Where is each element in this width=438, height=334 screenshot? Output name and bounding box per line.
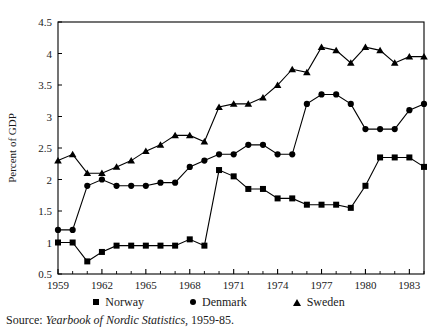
series-line-denmark [58, 94, 424, 229]
data-point-denmark [333, 91, 339, 97]
data-point-denmark [406, 107, 412, 113]
y-axis-tick-label: 2 [47, 174, 53, 186]
data-point-denmark [245, 142, 251, 148]
source-prefix: Source: [6, 313, 43, 327]
data-point-denmark [143, 183, 149, 189]
data-point-norway [348, 205, 354, 211]
series-line-sweden [58, 47, 424, 173]
data-point-denmark [304, 101, 310, 107]
data-point-norway [333, 202, 339, 208]
legend-item-norway: Norway [93, 295, 144, 310]
data-point-norway [187, 236, 193, 242]
series-line-norway [58, 157, 424, 261]
y-axis-tick-label: 4.5 [38, 16, 52, 28]
source-years: 1959-85. [191, 313, 234, 327]
y-axis-tick-label: 1 [47, 237, 53, 249]
x-axis-tick-label: 1968 [179, 279, 202, 291]
data-point-sweden [318, 44, 326, 51]
data-point-denmark [318, 91, 324, 97]
data-point-sweden [362, 44, 370, 51]
data-point-sweden [288, 66, 296, 73]
y-axis-tick-label: 3 [47, 111, 53, 123]
data-point-denmark [70, 227, 76, 233]
data-point-norway [231, 173, 237, 179]
x-axis-tick-label: 1962 [91, 279, 113, 291]
data-point-norway [406, 154, 412, 160]
x-axis-tick-label: 1983 [398, 279, 421, 291]
circle-marker-icon [190, 299, 196, 305]
data-point-denmark [187, 164, 193, 170]
data-point-norway [275, 195, 281, 201]
data-point-norway [362, 183, 368, 189]
plot-frame [58, 22, 424, 274]
data-point-denmark [157, 180, 163, 186]
data-point-denmark [289, 151, 295, 157]
data-point-denmark [216, 151, 222, 157]
data-point-norway [319, 202, 325, 208]
data-point-sweden [113, 163, 121, 170]
data-point-norway [84, 258, 90, 264]
x-axis-tick-label: 1977 [311, 279, 334, 291]
x-axis-tick-label: 1971 [223, 279, 245, 291]
data-point-norway [304, 202, 310, 208]
data-point-denmark [99, 176, 105, 182]
data-point-denmark [172, 180, 178, 186]
data-point-norway [289, 195, 295, 201]
data-point-norway [70, 240, 76, 246]
chart-figure: 0.511.522.533.544.5195919621965196819711… [0, 0, 438, 334]
data-point-norway [421, 164, 427, 170]
data-point-norway [216, 167, 222, 173]
data-point-sweden [69, 151, 77, 158]
data-point-denmark [421, 101, 427, 107]
data-point-denmark [275, 151, 281, 157]
data-point-denmark [377, 126, 383, 132]
x-axis-tick-label: 1965 [135, 279, 158, 291]
data-point-norway [245, 186, 251, 192]
data-point-sweden [157, 141, 165, 148]
x-axis-tick-label: 1974 [267, 279, 290, 291]
source-note: Source: Yearbook of Nordic Statistics, 1… [6, 313, 234, 328]
data-point-norway [55, 240, 61, 246]
data-point-norway [143, 243, 149, 249]
line-chart: 0.511.522.533.544.5195919621965196819711… [0, 0, 438, 334]
legend-label-denmark: Denmark [202, 295, 247, 310]
data-point-sweden [54, 157, 62, 164]
chart-legend: Norway Denmark Sweden [0, 294, 438, 310]
data-point-denmark [113, 183, 119, 189]
data-point-denmark [231, 151, 237, 157]
data-point-norway [377, 154, 383, 160]
data-point-denmark [201, 158, 207, 164]
data-point-denmark [362, 126, 368, 132]
data-point-denmark [55, 227, 61, 233]
y-axis-tick-label: 2.5 [38, 142, 52, 154]
legend-label-norway: Norway [105, 295, 144, 310]
data-point-norway [201, 243, 207, 249]
data-point-sweden [142, 148, 150, 155]
data-point-denmark [348, 101, 354, 107]
data-point-sweden [201, 138, 209, 145]
data-point-norway [114, 243, 120, 249]
data-point-norway [392, 154, 398, 160]
legend-item-denmark: Denmark [190, 295, 247, 310]
triangle-marker-icon [293, 299, 301, 306]
data-point-sweden [127, 157, 135, 164]
y-axis-tick-label: 4 [47, 48, 53, 60]
legend-item-sweden: Sweden [293, 295, 345, 310]
y-axis-tick-label: 1.5 [38, 205, 52, 217]
y-axis-title: Percent of GDP [6, 113, 18, 183]
legend-label-sweden: Sweden [307, 295, 345, 310]
data-point-norway [172, 243, 178, 249]
data-point-denmark [260, 142, 266, 148]
data-point-norway [157, 243, 163, 249]
data-point-norway [260, 186, 266, 192]
y-axis-tick-label: 3.5 [38, 79, 52, 91]
x-axis-tick-label: 1959 [47, 279, 70, 291]
data-point-denmark [128, 183, 134, 189]
x-axis-tick-label: 1980 [354, 279, 377, 291]
square-marker-icon [93, 299, 99, 305]
data-point-norway [99, 249, 105, 255]
source-title: Yearbook of Nordic Statistics, [46, 313, 188, 327]
data-point-denmark [392, 126, 398, 132]
data-point-norway [128, 243, 134, 249]
data-point-denmark [84, 183, 90, 189]
